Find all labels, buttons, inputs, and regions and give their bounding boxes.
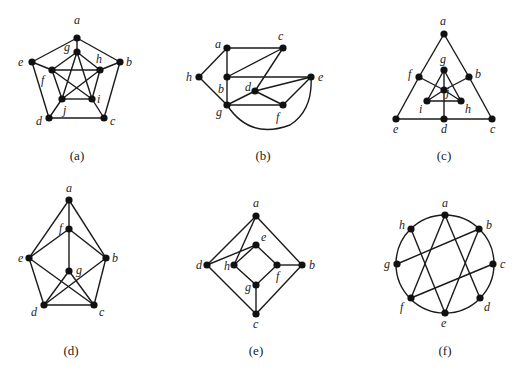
vertex-label: g xyxy=(440,52,446,66)
vertex-h xyxy=(96,66,103,73)
graph-caption: (f) xyxy=(439,343,452,358)
vertex-label: e xyxy=(18,55,24,69)
edge-a-d xyxy=(445,215,480,298)
vertex-h xyxy=(457,97,464,104)
vertex-d xyxy=(476,294,483,301)
edge-g-j xyxy=(62,52,77,99)
vertex-label: d xyxy=(245,80,252,94)
vertex-h xyxy=(407,225,414,232)
vertex-d xyxy=(40,301,47,308)
edge-f-e xyxy=(396,77,419,119)
edge-g-d xyxy=(44,271,69,305)
vertex-label: d xyxy=(36,114,43,128)
vertex-h xyxy=(195,73,202,80)
edge-a-b xyxy=(444,34,469,77)
vertex-label: e xyxy=(441,316,447,330)
edge-e-d xyxy=(29,258,44,305)
vertex-label: f xyxy=(276,269,281,283)
vertex-label: h xyxy=(96,52,102,66)
edge-f-e xyxy=(29,229,69,258)
vertex-c xyxy=(489,260,496,267)
vertex-c xyxy=(279,44,286,51)
vertex-label: b xyxy=(486,218,492,232)
vertex-e xyxy=(28,58,35,65)
vertex-f xyxy=(407,294,414,301)
vertex-e xyxy=(252,241,259,248)
vertex-label: e xyxy=(18,251,24,265)
vertex-label: a xyxy=(215,37,221,51)
graph-figure: agebfhjidc(a)achbedgf(b)agfbjihedc(c)afe… xyxy=(0,0,529,373)
vertex-g xyxy=(252,281,259,288)
graph-b: achbedgf(b) xyxy=(186,29,324,163)
vertex-label: e xyxy=(261,230,267,244)
vertex-label: c xyxy=(99,305,105,319)
edge-g-i xyxy=(427,70,444,101)
vertex-label: d xyxy=(484,300,491,314)
vertex-label: b xyxy=(126,55,132,69)
vertex-label: d xyxy=(31,305,38,319)
vertex-label: a xyxy=(442,196,448,210)
edge-a-e xyxy=(29,200,69,258)
vertex-a xyxy=(223,44,230,51)
vertex-i xyxy=(423,97,430,104)
edge-a-h xyxy=(199,48,227,77)
vertex-a xyxy=(441,211,448,218)
graph-caption: (b) xyxy=(255,148,270,163)
edge-b-c xyxy=(104,62,120,118)
vertex-a xyxy=(252,212,259,219)
vertex-label: c xyxy=(278,29,284,43)
vertex-b xyxy=(223,73,230,80)
edge-g-i xyxy=(77,52,92,99)
vertex-g xyxy=(223,101,230,108)
vertex-label: c xyxy=(110,114,116,128)
graph-caption: (e) xyxy=(249,343,263,358)
vertex-label: f xyxy=(408,67,413,81)
vertex-label: a xyxy=(74,13,80,27)
edge-d-e xyxy=(207,245,256,265)
vertex-c xyxy=(90,301,97,308)
vertex-label: h xyxy=(186,70,192,84)
vertex-g xyxy=(393,260,400,267)
edge-d-e xyxy=(32,62,49,118)
vertex-a xyxy=(440,30,447,37)
vertex-label: h xyxy=(224,259,230,273)
edge-f-i xyxy=(52,70,92,99)
edge-f-b xyxy=(69,229,106,258)
edge-a-e xyxy=(32,38,77,62)
vertex-f xyxy=(65,225,72,232)
edge-f-g xyxy=(52,52,77,70)
edge-b-c xyxy=(469,77,492,119)
vertex-e xyxy=(25,254,32,261)
edge-d-f xyxy=(255,91,283,105)
edge-h-e xyxy=(234,245,256,265)
edge-h-e xyxy=(411,229,445,313)
edge-g-f xyxy=(256,265,277,285)
edge-g-e xyxy=(227,77,311,130)
graph-caption: (d) xyxy=(63,343,78,358)
vertex-label: a xyxy=(440,14,446,28)
edge-e-f xyxy=(256,245,277,265)
vertex-label: e xyxy=(393,122,399,136)
edge-f-j xyxy=(419,77,444,90)
vertex-label: j xyxy=(61,103,67,117)
vertex-label: g xyxy=(64,40,70,54)
vertex-label: d xyxy=(441,122,448,136)
vertex-label: f xyxy=(41,73,46,87)
vertex-b xyxy=(102,254,109,261)
vertex-b xyxy=(298,261,305,268)
vertex-i xyxy=(88,95,95,102)
vertex-label: b xyxy=(309,258,315,272)
vertex-f xyxy=(279,101,286,108)
vertex-a xyxy=(73,34,80,41)
edge-h-j xyxy=(62,70,100,99)
vertex-c xyxy=(100,114,107,121)
graph-a: agebfhjidc(a) xyxy=(18,13,132,163)
vertex-label: f xyxy=(400,300,405,314)
vertex-d xyxy=(203,261,210,268)
vertex-a xyxy=(65,196,72,203)
vertex-d xyxy=(45,114,52,121)
vertex-h xyxy=(230,261,237,268)
vertex-b xyxy=(465,73,472,80)
graph-caption: (a) xyxy=(70,148,84,163)
vertex-label: c xyxy=(490,122,496,136)
